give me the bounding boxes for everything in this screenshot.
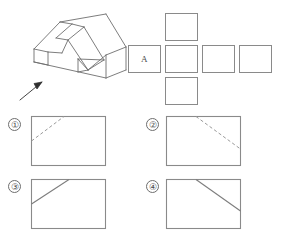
option-4-visible-line	[196, 180, 241, 212]
option-4-frame[interactable]	[167, 180, 241, 229]
option-4-figure[interactable]	[0, 0, 287, 241]
drawing-sheet: A ① ② ③ ④	[0, 0, 287, 241]
